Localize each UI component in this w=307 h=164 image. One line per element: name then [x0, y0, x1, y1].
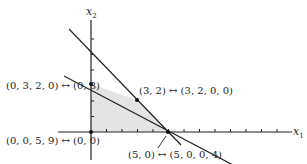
- vertex-3-2: [135, 98, 139, 102]
- point-label-5-0: (5, 0) ↔ (5, 0, 0, 4): [128, 150, 222, 160]
- vertex-0-0: [89, 130, 93, 134]
- x1-axis-label: x1: [293, 126, 304, 140]
- x2-axis-label: x2: [86, 6, 97, 20]
- vertex-5-0: [166, 130, 170, 134]
- pointer-arrow: [158, 136, 166, 148]
- point-label-0-3: (0, 3, 2, 0) ↔ (0, 3): [6, 81, 100, 91]
- point-label-3-2: (3, 2) ↔ (3, 2, 0, 0): [139, 86, 233, 96]
- point-label-0-0: (0, 0, 5, 9) ↔ (0, 0): [6, 136, 100, 146]
